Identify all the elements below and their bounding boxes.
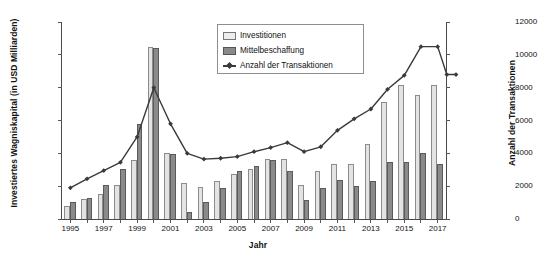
line-marker [151, 85, 156, 90]
x-tick-mark [87, 219, 88, 223]
y-axis-left-title: Investiertes Wagniskapital (in USD Milli… [9, 13, 19, 213]
y-tick-mark-right [446, 186, 450, 187]
line-marker [101, 168, 106, 173]
x-tick-mark [203, 219, 204, 223]
y-tick-label-right: 10000 [515, 50, 542, 59]
x-tick-mark [404, 219, 405, 223]
y-tick-label-right: 12000 [515, 17, 542, 26]
x-tick-mark [287, 219, 288, 223]
legend-label-transaktionen: Anzahl der Transaktionen [240, 61, 333, 70]
x-tick-mark [70, 219, 71, 223]
x-tick-mark [304, 219, 305, 223]
x-axis-title: Jahr [0, 240, 516, 250]
y-tick-mark-right [446, 219, 450, 220]
x-tick-mark [370, 219, 371, 223]
line-marker [454, 72, 459, 77]
line-marker [235, 154, 240, 159]
x-tick-mark [220, 219, 221, 223]
x-tick-mark [270, 219, 271, 223]
line-marker [444, 72, 449, 77]
line-marker [202, 157, 207, 162]
y-tick-mark-right [446, 22, 450, 23]
y-tick-mark-right [446, 54, 450, 55]
x-tick-mark [437, 219, 438, 223]
line-marker [435, 44, 440, 49]
legend-swatch-investitionen-icon [223, 32, 236, 40]
line-marker [252, 149, 257, 154]
line-marker [218, 156, 223, 161]
legend-line-marker-icon [223, 62, 236, 70]
x-tick-mark [337, 219, 338, 223]
legend-item-mittelbeschaffung: Mittelbeschaffung [223, 43, 358, 58]
x-tick-mark [354, 219, 355, 223]
legend-label-mittelbeschaffung: Mittelbeschaffung [240, 46, 304, 55]
line-marker [268, 145, 273, 150]
x-tick-mark [254, 219, 255, 223]
y-tick-label-right: 0 [515, 214, 542, 223]
x-tick-mark [420, 219, 421, 223]
legend-label-investitionen: Investitionen [240, 31, 286, 40]
y-tick-label-right: 8000 [515, 83, 542, 92]
x-tick-mark [103, 219, 104, 223]
chart-legend: Investitionen Mittelbeschaffung Anzahl d… [217, 24, 364, 74]
x-tick-mark [187, 219, 188, 223]
x-tick-mark [320, 219, 321, 223]
legend-item-transaktionen: Anzahl der Transaktionen [223, 58, 358, 73]
x-tick-mark [170, 219, 171, 223]
x-tick-label: 2017 [418, 224, 458, 233]
y-tick-mark-right [446, 153, 450, 154]
y-tick-mark-right [446, 120, 450, 121]
legend-swatch-mittelbeschaffung-icon [223, 47, 236, 55]
y-tick-mark-right [446, 87, 450, 88]
x-tick-mark [387, 219, 388, 223]
y-tick-label-right: 4000 [515, 148, 542, 157]
x-tick-mark [137, 219, 138, 223]
x-tick-mark [120, 219, 121, 223]
x-tick-mark [237, 219, 238, 223]
y-tick-label-right: 2000 [515, 181, 542, 190]
legend-item-investitionen: Investitionen [223, 28, 358, 43]
x-tick-mark [153, 219, 154, 223]
y-tick-label-right: 6000 [515, 116, 542, 125]
